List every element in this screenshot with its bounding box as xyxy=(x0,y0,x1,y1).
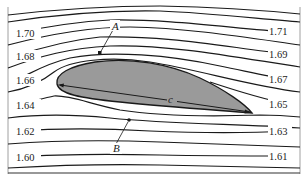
streamline xyxy=(16,20,288,33)
streamline xyxy=(8,165,300,168)
point-b-label: B xyxy=(113,142,120,154)
right-labels: 1.71 1.69 1.67 1.65 1.63 1.61 xyxy=(268,25,292,162)
airfoil-streamline-diagram: c A B 1.70 1.68 1.66 1.64 1.62 1.60 1.71… xyxy=(0,0,308,183)
contour-label: 1.60 xyxy=(16,152,34,163)
point-a-marker xyxy=(98,51,102,55)
streamline xyxy=(8,141,300,147)
contour-label: 1.67 xyxy=(269,74,287,85)
leader-line-a xyxy=(100,30,113,53)
contour-label: 1.68 xyxy=(16,51,34,62)
contour-label: 1.63 xyxy=(269,126,287,137)
chord-label: c xyxy=(168,93,173,105)
contour-label: 1.66 xyxy=(16,75,34,86)
streamline xyxy=(16,129,288,133)
contour-label: 1.70 xyxy=(16,28,34,39)
streamline xyxy=(16,154,288,157)
contour-label: 1.71 xyxy=(269,26,287,37)
point-b-marker xyxy=(127,118,131,122)
point-a-label: A xyxy=(111,20,119,32)
streamline xyxy=(8,115,300,128)
contour-label: 1.61 xyxy=(269,151,287,162)
contour-label: 1.64 xyxy=(16,100,35,111)
contour-label: 1.65 xyxy=(269,99,287,110)
contour-label: 1.62 xyxy=(16,126,34,137)
contour-label: 1.69 xyxy=(269,49,287,60)
